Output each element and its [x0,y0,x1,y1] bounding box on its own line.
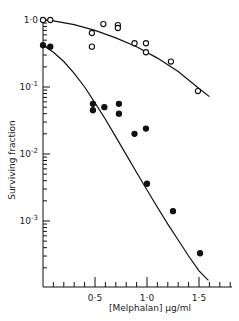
open-data-point [89,30,94,35]
x-axis-title: [Melphalan] µg/ml [109,303,191,313]
filled-data-point [102,105,107,110]
x-tick-label: 1·0 [140,293,155,303]
filled-data-point [116,101,121,106]
open-data-point [101,21,106,26]
y-tick-label: 10-2 [20,147,38,159]
x-tick-label: 0·5 [88,293,102,303]
filled-data-point [197,251,202,256]
open-data-point [115,25,120,30]
y-tick-label: 10-1 [20,80,38,92]
y-axis-title: Surviving fraction [7,120,17,200]
filled-data-point [132,131,137,136]
y-tick-label: 1·0 [24,15,39,25]
filled-data-point [90,108,95,113]
filled-data-point [143,126,148,131]
open-data-point [132,41,137,46]
survival-chart: 0·51·01·51·010-110-210-3 [Melphalan] µg/… [0,0,239,321]
filled-data-point [144,181,149,186]
fit-curves [43,20,209,280]
open-data-point [48,17,53,22]
y-tick-label: 10-3 [20,214,38,226]
filled-data-point [116,111,121,116]
filled-series-fit-curve [43,45,208,280]
data-points [40,17,202,255]
filled-data-point [48,44,53,49]
open-data-point [89,44,94,49]
axes [43,18,232,287]
open-data-point [195,88,200,93]
open-data-point [168,59,173,64]
filled-data-point [170,209,175,214]
x-tick-label: 1·5 [192,293,206,303]
tick-labels: 0·51·01·51·010-110-210-3 [20,15,207,303]
open-data-point [40,17,45,22]
filled-data-point [90,101,95,106]
filled-data-point [40,43,45,48]
open-series-fit-curve [43,20,209,97]
open-data-point [143,50,148,55]
open-data-point [143,41,148,46]
